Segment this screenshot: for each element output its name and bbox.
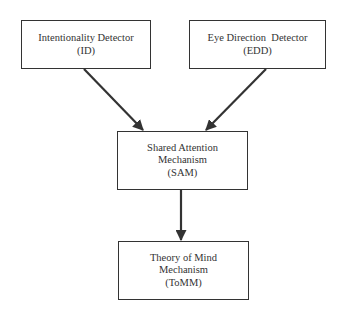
node-label-line: (ToMM) xyxy=(165,277,202,290)
node-label-line: (SAM) xyxy=(168,167,198,180)
arrow-id-to-sam xyxy=(84,69,143,130)
node-label-line: Shared Attention xyxy=(147,142,218,155)
node-label-line: Intentionality Detector xyxy=(38,32,133,45)
intentionality-detector-box: Intentionality Detector (ID) xyxy=(21,20,151,69)
node-label-line: (ID) xyxy=(77,45,95,58)
eye-direction-detector-box: Eye Direction Detector (EDD) xyxy=(189,20,326,69)
node-label-line: Eye Direction Detector xyxy=(208,32,308,45)
theory-of-mind-mechanism-box: Theory of Mind Mechanism (ToMM) xyxy=(118,241,249,300)
node-label-line: Mechanism xyxy=(158,154,207,167)
node-label-line: Theory of Mind xyxy=(150,252,217,265)
shared-attention-mechanism-box: Shared Attention Mechanism (SAM) xyxy=(117,131,248,190)
arrow-edd-to-sam xyxy=(206,69,266,130)
node-label-line: (EDD) xyxy=(243,45,272,58)
node-label-line: Mechanism xyxy=(159,264,208,277)
